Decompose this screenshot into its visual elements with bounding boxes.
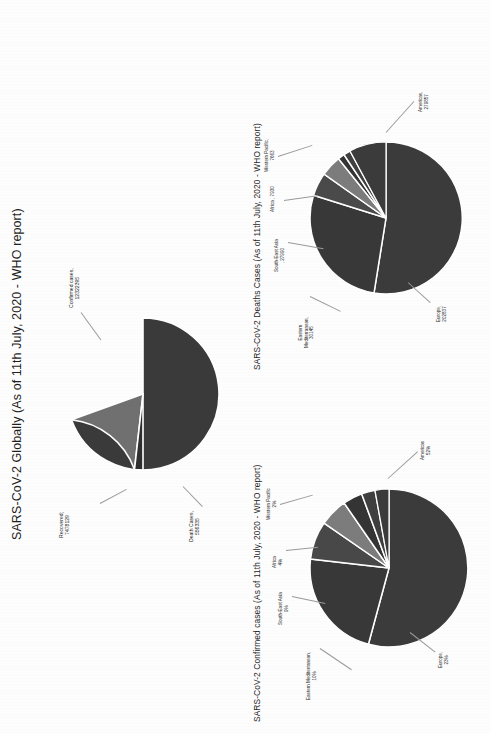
chart-confirmed-region: SARS-CoV-2 Confirmed cases (As of 11th J… xyxy=(252,722,491,732)
label-seasia-3-l2: , 27990 xyxy=(280,239,286,272)
scanned-page: SARS-CoV-2 Globally (As of 11th July, 20… xyxy=(0,0,491,733)
label-recovered-line2: 7478129 xyxy=(64,512,70,538)
label-wpacific-2-l1: Western Pacific xyxy=(266,488,272,520)
label-americas-3-l2: 279857 xyxy=(424,92,430,112)
label-deaths-line2: 556335 xyxy=(194,511,200,542)
slice-americas-deaths xyxy=(374,142,462,294)
pie-confirmed-region-svg xyxy=(306,485,472,651)
label-seasia-3-l1: South-East Asia xyxy=(274,239,280,272)
label-americas-2-l2: 52% xyxy=(426,441,432,460)
chart-deaths-region-plot: Americas, 279857 Europe, 202837 Eastern … xyxy=(258,60,483,370)
chart-global-plot: Confirmed cases, 12322395 Recovered; 747… xyxy=(48,290,238,550)
leader-americas-2 xyxy=(388,451,418,479)
label-africa-2-l2: 4% xyxy=(278,556,284,568)
label-confirmed-line2: 12322395 xyxy=(74,268,80,308)
leader-deaths xyxy=(183,486,203,507)
pie-deaths-region xyxy=(306,138,466,302)
label-wpacific-3-l1: Western Pacific, xyxy=(264,139,270,172)
label-europe-3-l1: Europe, xyxy=(436,306,442,322)
slice-confirmed-cases xyxy=(72,318,219,470)
chart-deaths-region: SARS-CoV-2 Deaths Cases (As of 11th July… xyxy=(252,370,491,380)
label-eastmed-2-l2: 10% xyxy=(312,652,318,700)
label-eastmed-3-l3: 30145 xyxy=(309,317,315,348)
chart-global-title: SARS-CoV-2 Globally (As of 11th July, 20… xyxy=(10,208,24,540)
leader-recovered xyxy=(100,489,127,504)
label-eastmed-2-l1: Eastern Mediterranean, xyxy=(306,652,312,700)
label-seasia-2-l2: 9% xyxy=(284,592,290,625)
label-europe-2-l2: 23% xyxy=(444,652,450,668)
label-africa-3-l1: Africa , 7930 xyxy=(270,186,276,212)
label-wpacific-3-l2: 7663 xyxy=(270,139,276,172)
leader-americas-3 xyxy=(386,101,415,133)
chart-confirmed-region-plot: Americas 52% Europe, 23% Eastern Mediter… xyxy=(258,400,483,720)
pie-global xyxy=(63,314,223,478)
label-europe-3-l2: 202837 xyxy=(442,306,448,322)
pie-global-svg xyxy=(63,314,223,474)
label-seasia-2-l1: South-East Asia xyxy=(278,592,284,625)
pie-confirmed-region xyxy=(306,485,472,655)
label-wpacific-2-l2: 2% xyxy=(272,488,278,520)
label-americas-3-l1: Americas, xyxy=(418,92,424,112)
pie-deaths-region-svg xyxy=(306,138,466,298)
label-americas-2-l1: Americas xyxy=(420,441,426,460)
label-africa-2-l1: Africa xyxy=(272,556,278,568)
label-europe-2-l1: Europe, xyxy=(438,652,444,668)
